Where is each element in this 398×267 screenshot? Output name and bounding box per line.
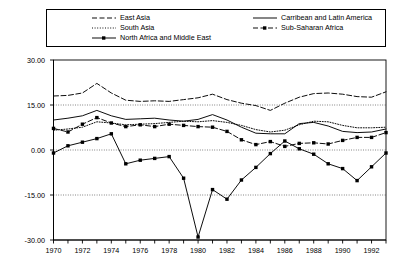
x-tick-label: 1982 xyxy=(214,246,240,255)
chart-container: East AsiaSouth AsiaNorth Africa and Midd… xyxy=(0,0,398,267)
y-tick-label: 30.00 xyxy=(7,56,45,65)
series-marker-2 xyxy=(182,177,185,180)
x-tick-label: 1978 xyxy=(156,246,182,255)
series-marker-2 xyxy=(254,166,257,169)
series-marker-2 xyxy=(225,198,228,201)
series-marker-2 xyxy=(153,157,156,160)
x-tick-label: 1976 xyxy=(127,246,153,255)
series-marker-4 xyxy=(341,139,344,142)
series-marker-4 xyxy=(225,130,228,133)
series-marker-2 xyxy=(355,179,358,182)
x-tick-label: 1972 xyxy=(69,246,95,255)
x-tick-label: 1980 xyxy=(185,246,211,255)
y-tick-label: 0.00 xyxy=(7,146,45,155)
x-tick-label: 1970 xyxy=(41,246,67,255)
series-marker-4 xyxy=(52,127,55,130)
series-marker-2 xyxy=(66,144,69,147)
x-tick-label: 1974 xyxy=(98,246,124,255)
series-marker-4 xyxy=(81,123,84,126)
series-marker-4 xyxy=(66,130,69,133)
series-marker-2 xyxy=(167,155,170,158)
x-tick-label: 1992 xyxy=(359,246,385,255)
series-marker-4 xyxy=(269,140,272,143)
series-marker-4 xyxy=(312,141,315,144)
x-tick-label: 1984 xyxy=(243,246,269,255)
series-marker-4 xyxy=(211,126,214,129)
series-marker-2 xyxy=(384,151,387,154)
series-marker-4 xyxy=(167,123,170,126)
series-marker-4 xyxy=(139,123,142,126)
series-marker-2 xyxy=(139,159,142,162)
series-marker-2 xyxy=(298,147,301,150)
series-marker-4 xyxy=(370,136,373,139)
x-tick-label: 1986 xyxy=(272,246,298,255)
y-tick-label: -15.00 xyxy=(7,191,45,200)
series-marker-2 xyxy=(283,139,286,142)
series-marker-2 xyxy=(211,188,214,191)
x-tick-label: 1990 xyxy=(330,246,356,255)
series-marker-4 xyxy=(355,136,358,139)
series-marker-4 xyxy=(110,121,113,124)
chart-plot-area xyxy=(0,0,398,267)
series-marker-4 xyxy=(384,131,387,134)
series-marker-2 xyxy=(95,137,98,140)
series-marker-2 xyxy=(81,141,84,144)
series-marker-4 xyxy=(283,145,286,148)
series-marker-4 xyxy=(298,142,301,145)
series-marker-4 xyxy=(182,124,185,127)
series-marker-2 xyxy=(52,151,55,154)
series-marker-2 xyxy=(124,162,127,165)
series-marker-2 xyxy=(110,132,113,135)
series-marker-2 xyxy=(326,162,329,165)
series-marker-4 xyxy=(326,142,329,145)
series-marker-4 xyxy=(153,125,156,128)
series-marker-4 xyxy=(95,116,98,119)
series-marker-2 xyxy=(269,152,272,155)
y-tick-label: -30.00 xyxy=(7,236,45,245)
series-marker-4 xyxy=(124,125,127,128)
series-marker-4 xyxy=(240,138,243,141)
y-tick-label: 15.00 xyxy=(7,101,45,110)
series-marker-4 xyxy=(254,143,257,146)
series-marker-4 xyxy=(196,125,199,128)
x-tick-label: 1988 xyxy=(301,246,327,255)
series-marker-2 xyxy=(341,167,344,170)
series-marker-2 xyxy=(240,178,243,181)
series-marker-2 xyxy=(312,153,315,156)
series-marker-2 xyxy=(196,235,199,238)
series-marker-2 xyxy=(370,165,373,168)
